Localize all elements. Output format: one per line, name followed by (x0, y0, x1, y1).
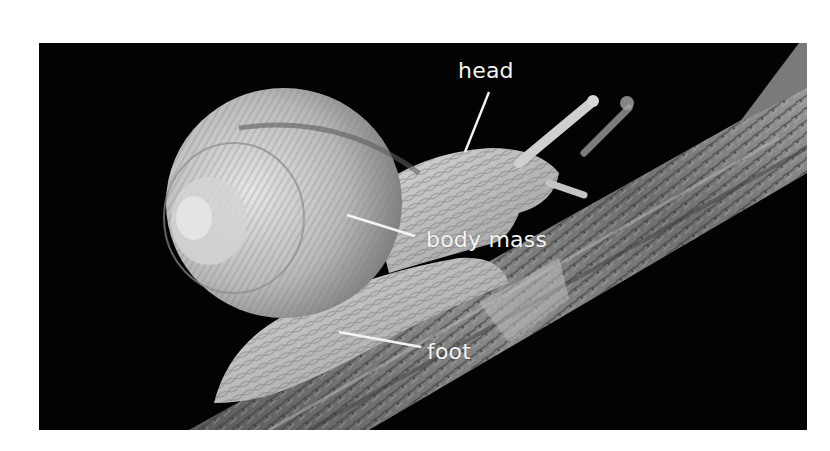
label-head: head (458, 60, 514, 82)
snail-photo: head body mass foot (39, 43, 807, 430)
snail-illustration (39, 43, 807, 430)
head-leader-line (465, 92, 489, 152)
label-foot: foot (427, 341, 471, 363)
label-body-mass: body mass (426, 229, 547, 251)
